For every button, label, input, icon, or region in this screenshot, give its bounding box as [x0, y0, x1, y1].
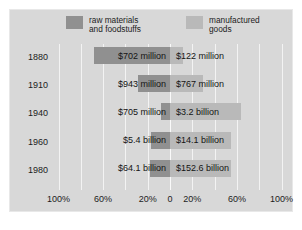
axis-tick-4: 20%	[183, 194, 201, 204]
x-axis: 100%60%20%020%60%100%	[10, 192, 294, 210]
chart-figure: raw materials and foodstuffs manufacture…	[0, 0, 302, 230]
value-label-manufactured-goods-1960: $14.1 billion	[176, 135, 224, 145]
year-label-1980: 1980	[28, 165, 62, 175]
chart-row: 1980$64.1 billion$152.6 billion	[10, 157, 294, 185]
value-label-manufactured-goods-1910: $767 million	[176, 79, 224, 89]
chart-legend: raw materials and foodstuffs manufacture…	[10, 14, 292, 44]
value-label-manufactured-goods-1940: $3.2 billion	[176, 107, 219, 117]
legend-label-raw-materials: raw materials and foodstuffs	[89, 16, 141, 35]
value-label-raw-materials-1940: $705 million	[118, 107, 166, 117]
value-label-raw-materials-1980: $64.1 billion	[118, 163, 166, 173]
value-label-raw-materials-1910: $943 million	[118, 79, 166, 89]
legend-item-raw-materials: raw materials and foodstuffs	[66, 16, 141, 35]
axis-tick-5: 60%	[228, 194, 246, 204]
plot-area: 1880$702 million$122 million1910$943 mil…	[10, 44, 294, 192]
axis-tick-0: 100%	[47, 194, 70, 204]
axis-tick-2: 20%	[139, 194, 157, 204]
legend-swatch-manufactured-goods	[186, 16, 203, 29]
legend-item-manufactured-goods: manufactured goods	[186, 16, 260, 35]
chart-plate: raw materials and foodstuffs manufacture…	[9, 9, 293, 212]
axis-tick-3: 0	[167, 194, 172, 204]
year-label-1940: 1940	[28, 108, 62, 118]
value-label-manufactured-goods-1880: $122 million	[176, 51, 224, 61]
value-label-raw-materials-1880: $702 million	[118, 51, 166, 61]
value-label-manufactured-goods-1980: $152.6 billion	[176, 163, 229, 173]
axis-tick-6: 100%	[270, 194, 293, 204]
legend-swatch-raw-materials	[66, 16, 83, 29]
year-label-1880: 1880	[28, 52, 62, 62]
year-label-1960: 1960	[28, 137, 62, 147]
value-label-raw-materials-1960: $5.4 billion	[123, 135, 166, 145]
chart-background: raw materials and foodstuffs manufacture…	[10, 10, 292, 211]
legend-label-manufactured-goods-line2: goods	[209, 25, 260, 34]
legend-label-manufactured-goods: manufactured goods	[209, 16, 260, 35]
chart-row: 1960$5.4 billion$14.1 billion	[10, 129, 294, 157]
axis-tick-1: 60%	[94, 194, 112, 204]
chart-row: 1910$943 million$767 million	[10, 72, 294, 100]
chart-row: 1880$702 million$122 million	[10, 44, 294, 72]
legend-label-raw-materials-line2: and foodstuffs	[89, 25, 141, 34]
chart-row: 1940$705 million$3.2 billion	[10, 100, 294, 128]
year-label-1910: 1910	[28, 80, 62, 90]
